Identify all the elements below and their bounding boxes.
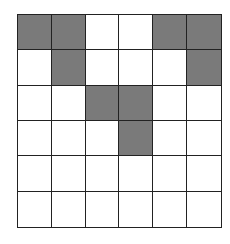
empty-cell	[119, 15, 153, 50]
empty-cell	[18, 50, 52, 85]
empty-cell	[86, 192, 120, 227]
empty-cell	[52, 86, 86, 121]
empty-cell	[187, 156, 221, 191]
empty-cell	[18, 121, 52, 156]
empty-cell	[52, 156, 86, 191]
filled-cell	[86, 86, 120, 121]
empty-cell	[119, 192, 153, 227]
empty-cell	[187, 86, 221, 121]
filled-cell	[52, 15, 86, 50]
empty-cell	[153, 50, 187, 85]
filled-cell	[153, 15, 187, 50]
empty-cell	[86, 156, 120, 191]
filled-cell	[187, 15, 221, 50]
empty-cell	[153, 192, 187, 227]
filled-cell	[119, 121, 153, 156]
empty-cell	[18, 86, 52, 121]
empty-cell	[153, 121, 187, 156]
empty-cell	[52, 192, 86, 227]
empty-cell	[86, 15, 120, 50]
empty-cell	[153, 86, 187, 121]
empty-cell	[18, 156, 52, 191]
filled-cell	[187, 50, 221, 85]
filled-cell	[119, 86, 153, 121]
empty-cell	[18, 192, 52, 227]
empty-cell	[119, 50, 153, 85]
empty-cell	[187, 121, 221, 156]
empty-cell	[119, 156, 153, 191]
empty-cell	[52, 121, 86, 156]
empty-cell	[153, 156, 187, 191]
filled-cell	[18, 15, 52, 50]
pattern-grid	[17, 14, 222, 228]
empty-cell	[187, 192, 221, 227]
empty-cell	[86, 50, 120, 85]
filled-cell	[52, 50, 86, 85]
empty-cell	[86, 121, 120, 156]
